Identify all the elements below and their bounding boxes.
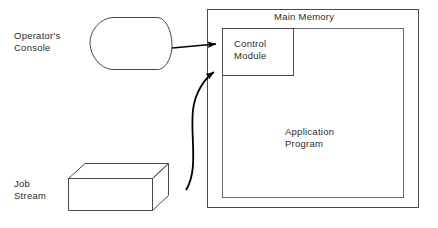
- diagram-canvas: Operator's Console Job Stream Main Memor…: [0, 0, 438, 228]
- operator-console-label: Operator's Console: [14, 30, 61, 53]
- job-stream-shape: [69, 164, 169, 211]
- application-program-label: Application Program: [285, 126, 334, 149]
- operator-console-shape: [90, 18, 172, 70]
- diagram-graphics: [0, 0, 438, 228]
- job-stream-label: Job Stream: [14, 178, 46, 201]
- console-to-control-arrow: [172, 44, 216, 48]
- main-memory-label: Main Memory: [274, 11, 334, 23]
- job-stream-to-control-arrow: [186, 72, 214, 190]
- control-module-label: Control Module: [234, 38, 267, 61]
